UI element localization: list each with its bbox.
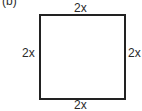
right-side-label: 2x — [128, 47, 141, 59]
left-side-label: 2x — [22, 47, 35, 59]
panel-label: (b) — [2, 0, 17, 7]
bottom-side-label: 2x — [74, 99, 87, 111]
square-shape — [39, 14, 126, 100]
top-side-label: 2x — [74, 2, 87, 14]
